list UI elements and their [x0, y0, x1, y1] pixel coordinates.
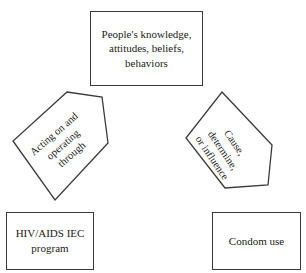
node-condom-use-label: Condom use	[225, 234, 288, 249]
node-peoples-knowledge-label: People's knowledge, attitudes, beliefs, …	[91, 27, 202, 71]
diagram-canvas: Acting on and operating through Cause, d…	[0, 0, 306, 273]
node-hiv-aids-iec-program: HIV/AIDS IEC program	[6, 212, 94, 270]
node-hiv-aids-iec-program-label: HIV/AIDS IEC program	[7, 226, 93, 255]
cropped-title-remnant	[0, 0, 306, 5]
node-peoples-knowledge: People's knowledge, attitudes, beliefs, …	[90, 11, 203, 86]
connector-label-cause: Cause, determine, or influence	[183, 104, 264, 197]
connector-label-acting: Acting on and operating through	[16, 99, 111, 189]
node-condom-use: Condom use	[212, 212, 301, 270]
